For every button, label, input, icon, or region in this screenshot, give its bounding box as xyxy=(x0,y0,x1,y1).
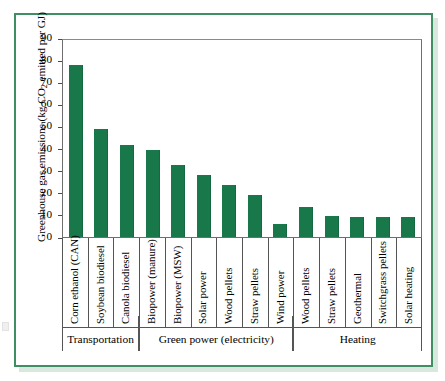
category-label: Wood pellets xyxy=(299,268,311,324)
bar xyxy=(248,195,262,237)
y-tick-label: 20 xyxy=(12,186,52,198)
y-tick-mark xyxy=(58,39,62,40)
y-tick-label: 50 xyxy=(12,119,52,131)
category-slot: Geothermal xyxy=(345,238,371,327)
group-label: Transportation xyxy=(67,333,134,345)
bar xyxy=(94,129,108,237)
category-slot: Solar heating xyxy=(396,238,422,327)
bar-slot xyxy=(344,40,370,237)
category-separator xyxy=(88,238,89,327)
category-slot: Switchgrass pellets xyxy=(371,238,397,327)
bar xyxy=(120,145,134,237)
category-separator xyxy=(319,238,320,327)
category-separator xyxy=(268,238,269,327)
category-separator xyxy=(293,238,294,327)
y-tick-mark xyxy=(58,83,62,84)
category-slot: Straw pellets xyxy=(319,238,345,327)
category-separator xyxy=(216,238,217,327)
category-label: Geothermal xyxy=(350,273,362,324)
group-edge xyxy=(293,316,294,351)
y-tick-mark xyxy=(58,105,62,106)
category-slot: Solar power xyxy=(191,238,217,327)
group-label-cell: Green power (electricity) xyxy=(139,327,293,351)
bar xyxy=(299,207,313,237)
category-separator xyxy=(113,238,114,327)
category-label: Biopower (manure) xyxy=(145,239,157,324)
y-tick-mark xyxy=(58,193,62,194)
y-tick-label: 90 xyxy=(12,31,52,43)
category-separator xyxy=(396,238,397,327)
category-label: Wind power xyxy=(273,271,285,324)
group-label-cell: Transportation xyxy=(62,327,139,351)
bar xyxy=(325,216,339,237)
bar xyxy=(401,217,415,237)
y-tick-label: 70 xyxy=(12,75,52,87)
category-separator xyxy=(345,238,346,327)
group-label-band: TransportationGreen power (electricity)H… xyxy=(62,327,422,351)
plot-area xyxy=(62,39,422,238)
y-tick-label: 80 xyxy=(12,53,52,65)
bar-slot xyxy=(114,40,140,237)
bars-layer xyxy=(63,40,421,237)
bar xyxy=(146,150,160,237)
group-label: Green power (electricity) xyxy=(159,333,274,345)
category-label: Wood pellets xyxy=(222,268,234,324)
category-separator xyxy=(139,238,140,327)
category-separator xyxy=(165,238,166,327)
bar xyxy=(376,217,390,237)
category-separator xyxy=(191,238,192,327)
category-label: Straw pellets xyxy=(325,268,337,324)
category-slot: Canola biodiesel xyxy=(113,238,139,327)
y-tick-label: 10 xyxy=(12,208,52,220)
bar-slot xyxy=(63,40,89,237)
category-separator xyxy=(242,238,243,327)
bar xyxy=(350,217,364,237)
y-axis-ticks: 9080706050403020100 xyxy=(0,39,62,238)
category-slot: Soybean biodiesel xyxy=(88,238,114,327)
margin-artifact xyxy=(2,322,9,331)
bar-slot xyxy=(242,40,268,237)
y-tick-mark xyxy=(58,171,62,172)
category-label: Soybean biodiesel xyxy=(93,245,105,324)
y-tick-label: 40 xyxy=(12,142,52,154)
group-edge xyxy=(421,316,422,351)
group-label-cell: Heating xyxy=(293,327,422,351)
category-label: Corn ethanol (CAN) xyxy=(67,235,79,324)
category-label: Biopower (MSW) xyxy=(170,246,182,324)
category-label: Solar power xyxy=(196,272,208,324)
bar-slot xyxy=(216,40,242,237)
category-slot: Straw pellets xyxy=(242,238,268,327)
bar xyxy=(197,175,211,237)
y-tick-label: 30 xyxy=(12,164,52,176)
bar xyxy=(273,224,287,237)
category-label: Switchgrass pellets xyxy=(376,241,388,324)
category-label-band: Corn ethanol (CAN)Soybean biodieselCanol… xyxy=(62,238,422,327)
category-label: Straw pellets xyxy=(247,268,259,324)
y-tick-mark xyxy=(58,238,62,239)
y-tick-label: 0 xyxy=(12,230,52,242)
bar-slot xyxy=(293,40,319,237)
bar xyxy=(171,165,185,237)
bar-slot xyxy=(370,40,396,237)
group-edge xyxy=(139,316,140,351)
category-label: Canola biodiesel xyxy=(119,252,131,324)
bar-slot xyxy=(89,40,115,237)
bar-slot xyxy=(319,40,345,237)
group-edge xyxy=(62,316,63,351)
category-slot: Wood pellets xyxy=(216,238,242,327)
category-slot: Biopower (manure) xyxy=(139,238,165,327)
group-label: Heating xyxy=(340,333,376,345)
category-separator xyxy=(62,238,63,327)
bar xyxy=(222,185,236,237)
bar-slot xyxy=(140,40,166,237)
y-tick-label: 60 xyxy=(12,97,52,109)
bar-slot xyxy=(191,40,217,237)
category-separator xyxy=(371,238,372,327)
category-slot: Biopower (MSW) xyxy=(165,238,191,327)
y-tick-mark xyxy=(58,127,62,128)
bar-slot xyxy=(165,40,191,237)
bar-slot xyxy=(396,40,422,237)
bar xyxy=(69,65,83,237)
y-tick-mark xyxy=(58,215,62,216)
category-slot: Corn ethanol (CAN) xyxy=(62,238,88,327)
